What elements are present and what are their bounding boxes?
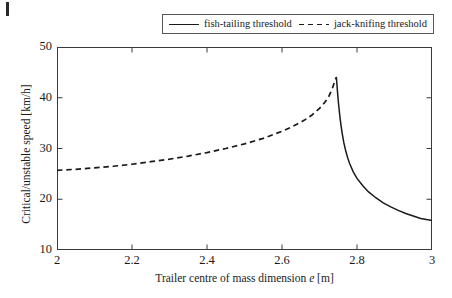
page-edge-mark: [6, 2, 9, 16]
legend-label-fish-tailing: fish-tailing threshold: [204, 19, 292, 30]
tick-marks: [57, 47, 432, 250]
x-tick-label-2.6: 2.6: [262, 254, 302, 267]
y-tick-label-50: 50: [18, 40, 52, 53]
x-tick-label-2.4: 2.4: [187, 254, 227, 267]
chart-figure: fish-tailing threshold jack-knifing thre…: [0, 0, 452, 298]
x-axis-tick-labels: 22.22.42.62.83: [57, 254, 432, 270]
y-axis-title: Critical/unstable speed [km/h]: [20, 54, 32, 254]
legend-line-sample-solid-icon: [169, 21, 199, 28]
x-axis-title-post: [m]: [314, 272, 333, 284]
x-axis-title-pre: Trailer centre of mass dimension: [155, 272, 309, 284]
legend-line-sample-dashed-icon: [299, 21, 329, 28]
x-tick-label-2: 2: [37, 254, 77, 267]
series-line-fish-tailing: [336, 77, 432, 220]
x-tick-label-3: 3: [412, 254, 452, 267]
x-tick-label-2.8: 2.8: [337, 254, 377, 267]
chart-legend: fish-tailing threshold jack-knifing thre…: [162, 14, 434, 34]
x-tick-label-2.2: 2.2: [112, 254, 152, 267]
x-axis-title: Trailer centre of mass dimension e [m]: [57, 272, 432, 284]
plot-canvas: [57, 47, 432, 250]
legend-entry-fish-tailing: fish-tailing threshold: [169, 19, 292, 30]
series-line-jack-knifing: [57, 77, 336, 170]
legend-entry-jack-knifing: jack-knifing threshold: [299, 19, 427, 30]
legend-label-jack-knifing: jack-knifing threshold: [334, 19, 427, 30]
